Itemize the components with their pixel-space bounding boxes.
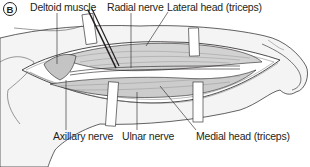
panel-label: B [3,2,17,16]
label-lateral-head: Lateral head (triceps) [167,1,262,13]
retractor-bottom-right [193,82,203,122]
label-ulnar-nerve: Ulnar nerve [122,130,174,142]
label-deltoid-muscle: Deltoid muscle [30,1,96,13]
retractor-top-right [189,28,200,56]
anatomy-figure: B Deltoid muscle Radial nerve Lateral he… [0,0,310,167]
label-axillary-nerve: Axillary nerve [53,130,113,142]
label-medial-head: Medial head (triceps) [196,130,290,142]
label-radial-nerve: Radial nerve [107,1,164,13]
